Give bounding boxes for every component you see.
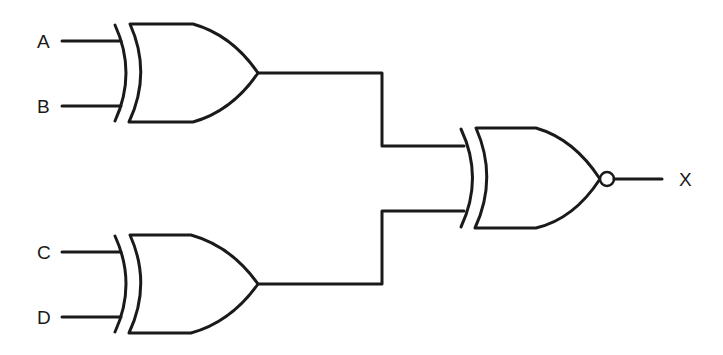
input-label-a: A xyxy=(37,31,50,52)
input-label-d: D xyxy=(37,307,51,328)
input-label-c: C xyxy=(37,242,51,263)
xnor-gate-3-body xyxy=(475,128,600,228)
xor-gate-2-body xyxy=(129,235,258,333)
xor-gate-2 xyxy=(115,235,258,333)
wire-gate2-to-gate3 xyxy=(258,211,464,284)
input-label-b: B xyxy=(37,96,50,117)
xnor-gate-3 xyxy=(461,128,614,228)
logic-circuit-diagram: A B C D X xyxy=(0,0,723,355)
xor-gate-1 xyxy=(115,24,258,122)
inversion-bubble xyxy=(600,172,614,186)
wire-gate1-to-gate3 xyxy=(258,73,464,146)
xor-gate-1-body xyxy=(129,24,258,122)
output-label-x: X xyxy=(679,169,692,190)
